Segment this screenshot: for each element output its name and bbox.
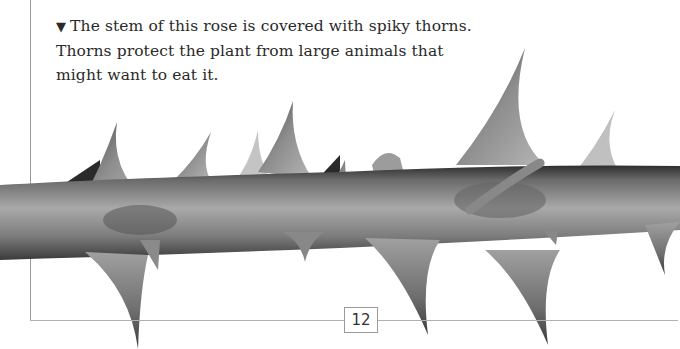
page-number: 12	[344, 307, 378, 333]
caption-text: The stem of this rose is covered with sp…	[56, 17, 472, 84]
photo-caption: ▼The stem of this rose is covered with s…	[56, 14, 476, 87]
triangle-down-icon: ▼	[56, 19, 66, 34]
